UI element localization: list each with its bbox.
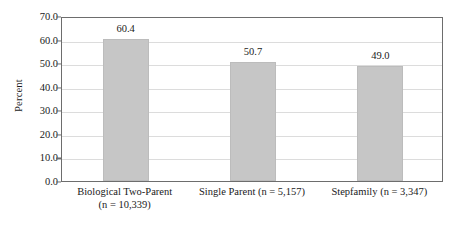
x-axis-category-labels: Biological Two-Parent(n = 10,339)Single … xyxy=(61,185,443,225)
bars-layer: 60.450.749.0 xyxy=(62,18,442,181)
bar-group[interactable]: 60.4 xyxy=(103,16,149,181)
x-axis-category-label: Stepfamily (n = 3,347) xyxy=(331,185,427,198)
bar-group[interactable]: 50.7 xyxy=(230,16,276,181)
x-axis-category-label-line: (n = 10,339) xyxy=(77,198,172,211)
y-axis-tick-label: 70.0 xyxy=(24,12,58,23)
bar-chart: Percent 0.010.020.030.040.050.060.070.0 … xyxy=(0,0,467,227)
y-axis-tick-label: 40.0 xyxy=(24,82,58,93)
plot-area: 60.450.749.0 xyxy=(61,17,443,182)
y-axis-tick-label: 0.0 xyxy=(24,177,58,188)
x-axis-category-label: Single Parent (n = 5,157) xyxy=(199,185,305,198)
y-axis-tick-labels: 0.010.020.030.040.050.060.070.0 xyxy=(24,17,58,182)
y-axis-tick-label: 60.0 xyxy=(24,35,58,46)
x-axis-category-label-line: Biological Two-Parent xyxy=(77,186,172,197)
bar[interactable] xyxy=(357,66,403,182)
bar[interactable] xyxy=(103,39,149,181)
y-axis-tick-label: 50.0 xyxy=(24,59,58,70)
bar-value-label: 50.7 xyxy=(244,47,262,58)
x-axis-category-label: Biological Two-Parent(n = 10,339) xyxy=(77,185,172,211)
x-axis-category-label-line: Single Parent (n = 5,157) xyxy=(199,186,305,197)
bar-group[interactable]: 49.0 xyxy=(357,16,403,181)
bar-value-label: 60.4 xyxy=(116,24,134,35)
x-axis-category-label-line: Stepfamily (n = 3,347) xyxy=(331,186,427,197)
y-axis-tick-label: 30.0 xyxy=(24,106,58,117)
y-axis-tick-label: 20.0 xyxy=(24,130,58,141)
y-axis-title-text: Percent xyxy=(13,79,24,112)
bar-value-label: 49.0 xyxy=(371,51,389,62)
bar[interactable] xyxy=(230,62,276,182)
y-axis-tick-label: 10.0 xyxy=(24,153,58,164)
